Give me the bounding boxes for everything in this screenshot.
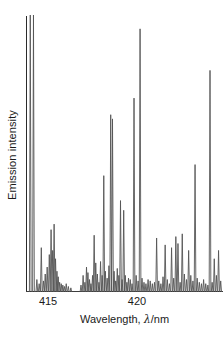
x-tick-label-420: 420: [117, 295, 157, 307]
lambda-symbol: λ: [144, 313, 151, 326]
x-axis-label: Wavelength, λ/nm: [26, 313, 223, 326]
y-axis-label: Emission intensity: [6, 110, 18, 200]
y-axis-label-container: Emission intensity: [0, 18, 24, 292]
emission-spectrum-figure: Emission intensity 415 420 Wavelength, λ…: [0, 0, 224, 342]
x-tick-text: 415: [39, 295, 57, 307]
x-tick-label-415: 415: [28, 295, 68, 307]
x-axis-label-suffix: /nm: [151, 313, 169, 325]
spectrum-trace: [26, 15, 223, 292]
plot-area: [26, 15, 223, 292]
x-axis-label-prefix: Wavelength,: [80, 313, 144, 325]
x-tick-text: 420: [128, 295, 146, 307]
